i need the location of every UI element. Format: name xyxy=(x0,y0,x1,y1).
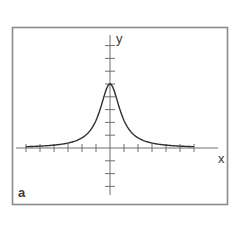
x-axis-label: x xyxy=(218,152,225,165)
y-axis-label: y xyxy=(116,32,123,45)
chart-frame xyxy=(13,28,228,205)
panel-label: a xyxy=(18,186,25,199)
